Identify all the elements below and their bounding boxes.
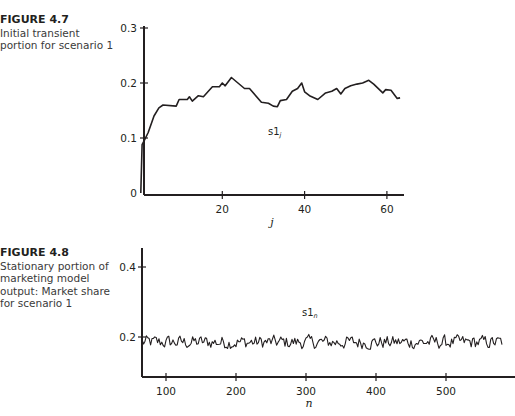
y-tick-label: 0.2	[119, 331, 136, 343]
y-tick-label: 0.2	[120, 77, 137, 89]
figure-4-8-caption: FIGURE 4.8 Stationary portion of marketi…	[0, 247, 118, 310]
x-tick-label: 400	[366, 385, 386, 397]
x-tick-label: 300	[296, 385, 316, 397]
x-tick-label: 60	[380, 203, 393, 215]
figure-4-7-chart: 00.10.20.3204060js1j	[0, 0, 515, 240]
x-axis-title: j	[267, 216, 274, 229]
x-tick-label: 100	[156, 385, 176, 397]
x-tick-label: 20	[216, 203, 229, 215]
series-label: s1n	[302, 307, 318, 320]
figure-4-8-caption-text: Stationary portion of marketing model ou…	[0, 260, 110, 310]
x-tick-label: 200	[226, 385, 246, 397]
y-tick-label: 0.1	[120, 132, 137, 144]
x-tick-label: 40	[298, 203, 311, 215]
y-tick-label: 0	[130, 187, 137, 199]
series-label: s1j	[268, 126, 282, 139]
figure-4-8-number: FIGURE 4.8	[0, 247, 118, 260]
x-axis-title: n	[305, 397, 312, 410]
x-tick-label: 500	[436, 385, 456, 397]
y-tick-label: 0.3	[120, 22, 137, 34]
y-tick-label: 0.4	[119, 261, 136, 273]
series-line-s1n	[142, 334, 502, 349]
